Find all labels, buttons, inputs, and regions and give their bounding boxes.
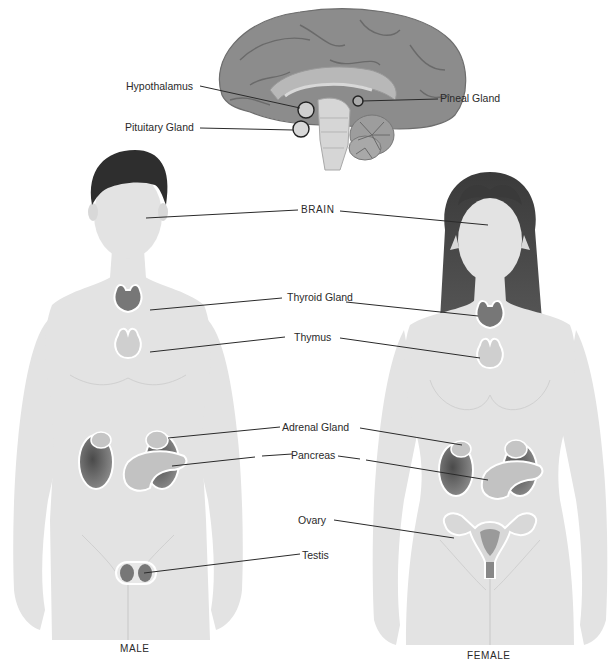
label-pineal-gland: Pineal Gland bbox=[440, 92, 500, 104]
label-female: FEMALE bbox=[467, 650, 511, 662]
label-thymus: Thymus bbox=[294, 331, 331, 343]
label-brain: BRAIN bbox=[301, 204, 335, 216]
male-figure bbox=[13, 150, 243, 640]
label-adrenal-gland: Adrenal Gland bbox=[282, 421, 349, 433]
endocrine-diagram: Hypothalamus Pituitary Gland Pineal Glan… bbox=[0, 0, 613, 672]
label-ovary: Ovary bbox=[298, 514, 326, 526]
label-thyroid-gland: Thyroid Gland bbox=[287, 291, 353, 303]
label-hypothalamus: Hypothalamus bbox=[126, 80, 193, 92]
brain-illustration bbox=[200, 9, 466, 170]
label-pancreas: Pancreas bbox=[291, 449, 335, 461]
female-figure bbox=[373, 172, 608, 645]
label-male: MALE bbox=[120, 643, 150, 655]
label-testis: Testis bbox=[302, 549, 329, 561]
label-pituitary-gland: Pituitary Gland bbox=[125, 121, 194, 133]
